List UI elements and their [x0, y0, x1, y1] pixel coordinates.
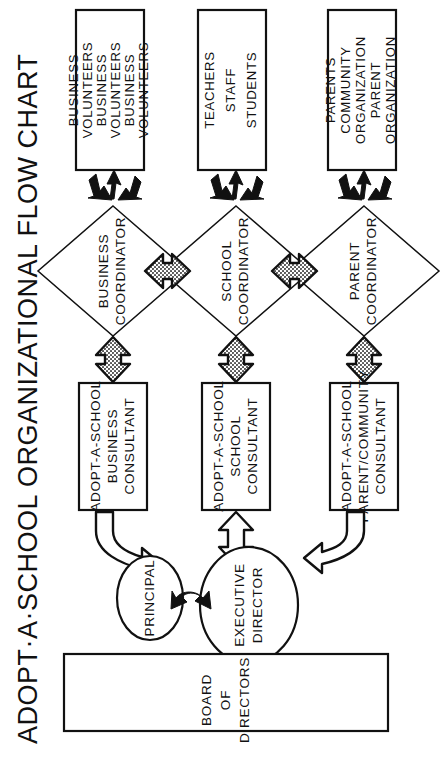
board-line: BOARD — [199, 674, 214, 726]
board-line: DIRECTORS — [237, 657, 252, 743]
circle-line: EXECUTIVE — [232, 563, 247, 646]
consultant-line: BUSINESS — [105, 409, 120, 483]
flow-chart-svg: ADOPT·A·SCHOOL ORGANIZATIONAL FLOW CHART… — [0, 0, 448, 758]
top-box-business-volunteers-label: BUSINESSVOLUNTEERSBUSINESSVOLUNTEERSBUSI… — [66, 42, 151, 138]
top-box-business-volunteers: BUSINESSVOLUNTEERSBUSINESSVOLUNTEERSBUSI… — [66, 10, 151, 170]
top-box-line: ORGANIZATION — [353, 36, 368, 144]
top-box-line: BUSINESS — [122, 54, 137, 126]
coordinator-line: COORDINATOR — [364, 217, 379, 325]
top-box-line: PARENT — [368, 62, 383, 119]
page-title: ADOPT·A·SCHOOL ORGANIZATIONAL FLOW CHART — [13, 53, 43, 744]
top-box-parent-community: PARENTSCOMMUNITYORGANIZATIONPARENTORGANI… — [323, 10, 398, 170]
consultant-line: ADOPT-A-SCHOOL — [339, 380, 354, 511]
coordinator-line: SCHOOL — [219, 240, 234, 302]
coordinator-line: COORDINATOR — [113, 217, 128, 325]
top-box-line: VOLUNTEERS — [108, 42, 123, 138]
consultant-box-parent-community: ADOPT-A-SCHOOLPARENT/COMMUNITYCONSULTANT — [330, 370, 398, 523]
page-title-text: ADOPT·A·SCHOOL ORGANIZATIONAL FLOW CHART — [13, 53, 43, 744]
consultant-line: CONSULTANT — [122, 397, 137, 494]
top-box-line: VOLUNTEERS — [136, 42, 151, 138]
top-box-line: PARENTS — [323, 57, 338, 123]
flow-chart-canvas: ADOPT·A·SCHOOL ORGANIZATIONAL FLOW CHART… — [0, 0, 448, 758]
top-box-line: BUSINESS — [66, 54, 81, 126]
circle-principal-label: PRINCIPAL — [142, 559, 157, 636]
circle-line: DIRECTOR — [250, 567, 265, 643]
top-box-line: ORGANIZATION — [383, 36, 398, 144]
consultant-box-business: ADOPT-A-SCHOOLBUSINESSCONSULTANT — [79, 380, 147, 511]
top-box-line: VOLUNTEERS — [80, 42, 95, 138]
top-box-line: TEACHERS — [202, 51, 217, 128]
consultant-line: PARENT/COMMUNITY — [356, 370, 371, 523]
coordinator-line: COORDINATOR — [236, 217, 251, 325]
consultant-box-school: ADOPT-A-SCHOOLSCHOOLCONSULTANT — [202, 380, 270, 511]
top-box-line: COMMUNITY — [338, 46, 353, 134]
top-box-line: STUDENTS — [244, 52, 259, 129]
board-line: OF — [218, 690, 233, 710]
consultant-line: ADOPT-A-SCHOOL — [211, 380, 226, 511]
board-of-directors-box: BOARDOFDIRECTORS — [64, 654, 388, 743]
top-box-line: BUSINESS — [94, 54, 109, 126]
coordinator-line: BUSINESS — [96, 234, 111, 308]
top-box-school-people: TEACHERSSTAFFSTUDENTS — [198, 10, 266, 170]
circle-line: PRINCIPAL — [142, 559, 157, 636]
consultant-line: ADOPT-A-SCHOOL — [88, 380, 103, 511]
consultant-line: CONSULTANT — [245, 397, 260, 494]
coordinator-line: PARENT — [347, 242, 362, 300]
top-box-line: STAFF — [223, 68, 238, 112]
consultant-line: SCHOOL — [228, 415, 243, 477]
circle-executive-director: EXECUTIVEDIRECTOR — [200, 547, 298, 663]
consultant-line: CONSULTANT — [373, 397, 388, 494]
